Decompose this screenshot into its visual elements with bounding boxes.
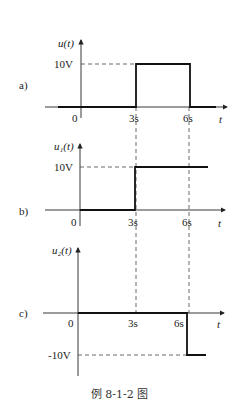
tick-6s-a: 6s — [183, 112, 193, 124]
tick-3s-a: 3s — [129, 112, 139, 124]
panel-label-b: b) — [19, 205, 29, 218]
panel-a: u(t) 10V a) 0 3s 6s t — [19, 37, 227, 125]
ylabel-c: u₂(t) — [52, 244, 72, 257]
level-a: 10V — [54, 58, 73, 70]
zero-a: 0 — [72, 112, 78, 124]
tick-3s-b: 3s — [128, 216, 138, 228]
xlabel-c: t — [217, 318, 221, 330]
ylabel-b: u₁(t) — [54, 140, 74, 153]
figure-caption: 例 8-1-2 图 — [0, 385, 239, 401]
xlabel-a: t — [219, 113, 223, 125]
level-c: -10V — [48, 349, 71, 361]
waveform-diagram: u(t) 10V a) 0 3s 6s t u₁(t) 10V b) 0 3s … — [0, 0, 239, 416]
xlabel-b: t — [218, 217, 222, 229]
tick-6s-c: 6s — [174, 317, 184, 329]
panel-label-a: a) — [19, 79, 28, 92]
zero-c: 0 — [68, 317, 74, 329]
zero-b: 0 — [71, 216, 77, 228]
tick-6s-b: 6s — [182, 216, 192, 228]
tick-3s-c: 3s — [128, 317, 138, 329]
panel-b: u₁(t) 10V b) 0 3s 6s t — [19, 140, 225, 229]
panel-label-c: c) — [19, 307, 28, 320]
level-b: 10V — [54, 161, 73, 173]
panel-c: u₂(t) -10V c) 0 3s 6s t — [19, 244, 224, 376]
ylabel-a: u(t) — [58, 37, 74, 50]
